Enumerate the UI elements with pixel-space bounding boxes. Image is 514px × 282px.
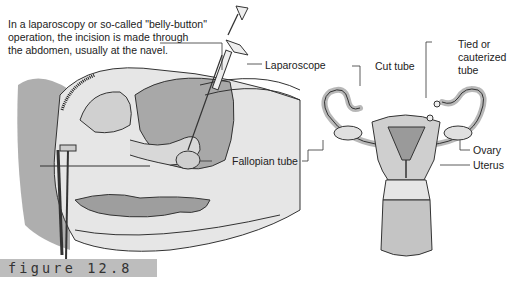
label-ovary: Ovary — [473, 144, 501, 156]
frontal-uterus — [324, 89, 483, 256]
figure-number-tag: figure 12.8 — [0, 259, 157, 277]
label-tied-tube-line2: cauterized — [458, 51, 506, 63]
label-fallopian-tube: Fallopian tube — [232, 155, 298, 167]
figure-number: figure 12.8 — [8, 260, 133, 276]
caption-line: operation, the incision is made through — [8, 31, 207, 44]
label-cut-tube: Cut tube — [375, 60, 415, 72]
label-uterus: Uterus — [473, 159, 504, 171]
label-tied-tube-line3: tube — [458, 64, 478, 76]
label-tied-tube-line1: Tied or — [458, 38, 490, 50]
caption-line: the abdomen, usually at the navel. — [8, 44, 207, 57]
figure-caption: In a laparoscopy or so-called "belly-but… — [8, 18, 207, 57]
caption-line: In a laparoscopy or so-called "belly-but… — [8, 18, 207, 31]
label-laparoscope: Laparoscope — [265, 59, 326, 71]
